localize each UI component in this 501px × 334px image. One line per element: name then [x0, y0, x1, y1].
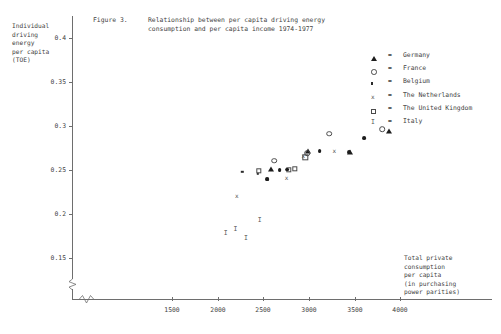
- data-point-filled-dot: [318, 149, 322, 153]
- y-tick-1: [69, 82, 73, 83]
- legend-label-italy: Italy: [403, 117, 422, 125]
- y-tick-label-4: 0.2: [40, 210, 66, 218]
- figure-title-number: Figure 3.: [93, 16, 148, 25]
- x-tick-label-4: 3500: [340, 306, 370, 314]
- x-tick-label-1: 2000: [203, 306, 233, 314]
- x-tick-2: [263, 297, 264, 301]
- x-tick-label-5: 4000: [385, 306, 415, 314]
- legend-label-netherlands: The Netherlands: [403, 91, 461, 99]
- legend-equals-1: =: [388, 64, 392, 72]
- figure-scatter-plot: Individual driving energy per capita (TO…: [0, 0, 501, 334]
- data-point-filled-dot: [265, 177, 269, 181]
- data-point-italy: I: [233, 225, 237, 231]
- data-point-italy: I: [244, 235, 248, 241]
- x-tick-label-3: 3000: [294, 306, 324, 314]
- data-point-the-netherlands: x: [285, 175, 289, 181]
- data-point-filled-dot: [362, 136, 366, 140]
- data-point-italy: I: [258, 217, 262, 223]
- figure-title-line2: consumption and per capita income 1974-1…: [148, 25, 313, 33]
- legend-equals-4: =: [388, 104, 392, 112]
- y-tick-3: [69, 170, 73, 171]
- y-tick-2: [69, 126, 73, 127]
- x-tick-5: [400, 297, 401, 301]
- open-square-icon: [371, 109, 376, 114]
- data-point-france: [271, 158, 277, 164]
- letter-i-icon: I: [371, 119, 375, 125]
- y-axis-break-icon: [68, 279, 77, 290]
- y-axis-lower-stub: [72, 289, 73, 299]
- data-point-germany: [268, 166, 274, 171]
- x-axis-break-icon: [79, 294, 96, 304]
- figure-title: Figure 3.Relationship between per capita…: [93, 16, 325, 34]
- legend-label-france: France: [403, 64, 426, 72]
- data-point-the-netherlands: x: [332, 148, 336, 154]
- data-point-filled-dot: [278, 168, 282, 172]
- legend-equals-5: =: [388, 117, 392, 125]
- open-circle-icon: [371, 69, 377, 75]
- data-point-italy: I: [224, 229, 228, 235]
- data-point-belgium: [241, 171, 243, 173]
- data-point-france: [379, 126, 385, 132]
- cross-x-icon: x: [371, 94, 375, 100]
- x-tick-1: [218, 297, 219, 301]
- filled-triangle-icon: [371, 56, 377, 61]
- data-point-the-united-kingdom: [302, 154, 307, 159]
- legend-label-germany: Germany: [403, 51, 430, 59]
- y-tick-label-3: 0.25: [40, 166, 66, 174]
- x-axis-line: [72, 299, 492, 300]
- data-point-the-netherlands: x: [235, 193, 239, 199]
- legend-equals-2: =: [388, 77, 392, 85]
- x-tick-label-2: 2500: [248, 306, 278, 314]
- y-tick-label-2: 0.3: [40, 122, 66, 130]
- x-tick-0: [172, 297, 173, 301]
- x-tick-label-0: 1500: [157, 306, 187, 314]
- data-point-the-united-kingdom: [256, 168, 261, 173]
- legend-equals-3: =: [388, 91, 392, 99]
- y-tick-label-5: 0.15: [40, 254, 66, 262]
- figure-title-line1: Relationship between per capita driving …: [148, 16, 325, 24]
- y-tick-5: [69, 258, 73, 259]
- y-tick-4: [69, 214, 73, 215]
- legend-equals-0: =: [388, 51, 392, 59]
- y-tick-0: [69, 38, 73, 39]
- data-point-germany: [386, 128, 392, 133]
- data-point-filled-dot: [347, 150, 351, 154]
- y-tick-label-1: 0.35: [40, 78, 66, 86]
- small-filled-square-icon: [371, 82, 373, 84]
- data-point-france: [327, 131, 333, 137]
- data-point-filled-dot: [285, 168, 289, 172]
- y-axis-caption: Individual driving energy per capita (TO…: [12, 22, 72, 65]
- legend-label-united-kingdom: The United Kingdom: [403, 104, 472, 112]
- x-axis-caption: Total private consumption per capita (in…: [404, 254, 499, 297]
- data-point-the-united-kingdom: [292, 166, 297, 171]
- legend-label-belgium: Belgium: [403, 77, 430, 85]
- y-tick-label-0: 0.4: [40, 34, 66, 42]
- x-tick-3: [309, 297, 310, 301]
- x-tick-4: [355, 297, 356, 301]
- y-axis-line: [72, 16, 73, 279]
